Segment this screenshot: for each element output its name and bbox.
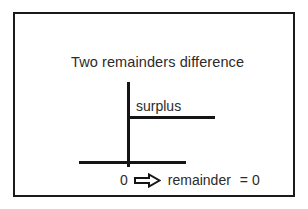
remainder-term: remainder <box>168 172 231 189</box>
diagram-title: Two remainders difference <box>71 53 244 71</box>
baseline-horizontal-line <box>79 161 186 164</box>
result-value: 0 <box>252 172 260 189</box>
equals-sign: = <box>240 172 248 189</box>
start-value: 0 <box>120 172 128 189</box>
remainder-annotation-row: 0 remainder = 0 <box>120 172 260 189</box>
surplus-label: surplus <box>136 98 181 115</box>
surplus-horizontal-line <box>127 116 215 119</box>
diagram-canvas: Two remainders difference surplus 0 rema… <box>0 0 308 209</box>
vertical-axis-line <box>127 82 130 167</box>
right-block-arrow-icon <box>134 173 161 188</box>
diagram-frame: Two remainders difference surplus 0 rema… <box>13 12 295 197</box>
